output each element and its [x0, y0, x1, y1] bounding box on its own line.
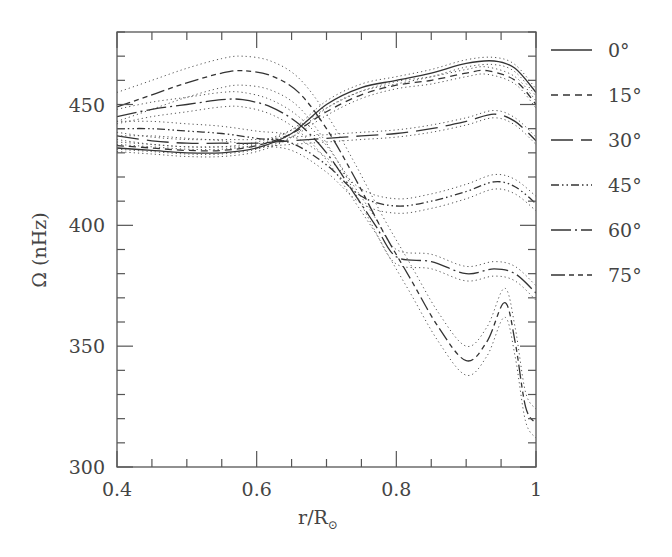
y-tick-label: 300	[69, 456, 105, 478]
legend-label: 45°	[608, 174, 642, 196]
axis-tick-labels: 0.40.60.81300350400450	[69, 94, 542, 501]
error-band-line	[117, 57, 536, 150]
legend: 0°15°30°45°60°75°	[551, 39, 642, 286]
legend-item: 15°	[551, 84, 642, 106]
error-band-line	[117, 136, 536, 214]
rotation-profile-chart: 0.40.60.81300350400450 Ω (nHz) r/R⊙ 0°15…	[0, 0, 672, 557]
x-axis-label: r/R⊙	[298, 506, 338, 532]
x-tick-label: 1	[530, 478, 542, 500]
series-15deg	[117, 67, 536, 155]
series-layer	[117, 56, 536, 438]
x-axis-label-main: r/R	[298, 506, 328, 528]
y-axis-label: Ω (nHz)	[28, 212, 50, 287]
error-band-line	[117, 56, 536, 409]
error-band-line	[117, 92, 536, 286]
legend-label: 0°	[608, 39, 630, 61]
legend-label: 30°	[608, 129, 642, 151]
legend-item: 60°	[551, 219, 642, 241]
y-tick-label: 400	[69, 214, 105, 236]
legend-item: 75°	[551, 264, 642, 286]
y-tick-label: 350	[69, 335, 105, 357]
x-tick-label: 0.4	[102, 478, 132, 500]
error-band-line	[117, 121, 536, 199]
y-tick-label: 450	[69, 94, 105, 116]
axis-ticks	[117, 32, 536, 467]
series-line	[117, 129, 536, 207]
legend-label: 75°	[608, 264, 642, 286]
legend-label: 15°	[608, 84, 642, 106]
legend-label: 60°	[608, 219, 642, 241]
legend-item: 45°	[551, 174, 642, 196]
legend-item: 30°	[551, 129, 642, 151]
series-75deg	[117, 56, 536, 438]
error-band-line	[117, 106, 536, 300]
x-tick-label: 0.8	[381, 478, 411, 500]
plot-frame	[117, 32, 536, 467]
x-axis-label-subscript: ⊙	[328, 518, 338, 532]
x-tick-label: 0.6	[242, 478, 272, 500]
legend-item: 0°	[551, 39, 630, 61]
